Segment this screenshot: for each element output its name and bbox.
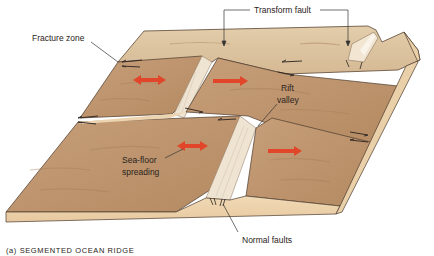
rift-valley-label-line2: valley xyxy=(277,95,299,105)
transform-fault-label: Transform fault xyxy=(254,5,311,15)
sea-floor-spreading-label-line1: Sea-floor xyxy=(122,155,157,165)
fracture-zone-label: Fracture zone xyxy=(32,33,84,43)
figure-caption: (a) SEGMENTED OCEAN RIDGE xyxy=(6,246,134,255)
normal-faults-label: Normal faults xyxy=(242,235,292,245)
sea-floor-spreading-label-line2: spreading xyxy=(122,167,159,177)
rift-valley-label-line1: Rift xyxy=(281,83,294,93)
